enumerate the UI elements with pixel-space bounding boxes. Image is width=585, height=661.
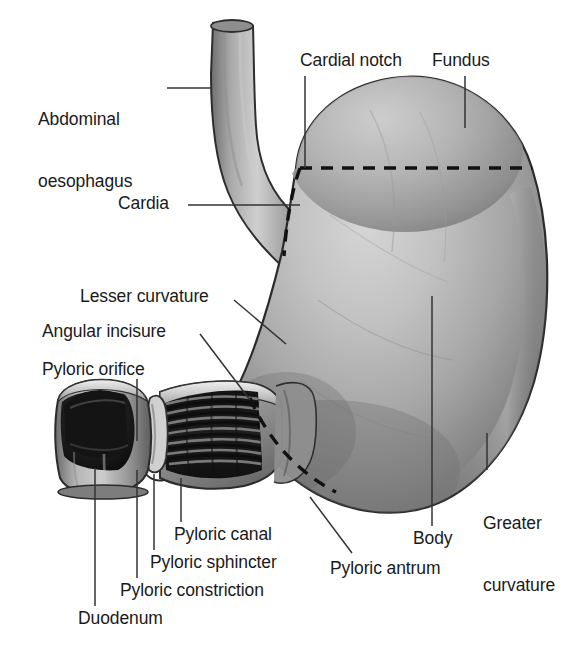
pyloric-region xyxy=(142,375,353,497)
label-pyloric-constriction: Pyloric constriction xyxy=(120,580,264,600)
label-greater-curvature: Greater curvature xyxy=(483,472,555,636)
label-angular-incisure: Angular incisure xyxy=(42,321,166,341)
label-abdominal-oesophagus-line1: Abdominal xyxy=(38,109,132,130)
label-abdominal-oesophagus-line2: oesophagus xyxy=(38,171,132,192)
label-pyloric-antrum: Pyloric antrum xyxy=(330,558,440,578)
label-fundus: Fundus xyxy=(432,50,490,70)
label-body: Body xyxy=(413,528,453,548)
label-pyloric-canal: Pyloric canal xyxy=(174,524,272,544)
label-greater-curvature-line1: Greater xyxy=(483,513,555,534)
label-pyloric-sphincter: Pyloric sphincter xyxy=(150,552,277,572)
label-greater-curvature-line2: curvature xyxy=(483,575,555,596)
label-lesser-curvature: Lesser curvature xyxy=(80,286,209,306)
label-cardia: Cardia xyxy=(118,193,169,213)
label-pyloric-orifice: Pyloric orifice xyxy=(42,359,145,379)
label-duodenum: Duodenum xyxy=(78,608,163,628)
label-cardial-notch: Cardial notch xyxy=(300,50,402,70)
stomach-anatomy-figure: Abdominal oesophagus Cardial notch Fundu… xyxy=(0,0,585,661)
